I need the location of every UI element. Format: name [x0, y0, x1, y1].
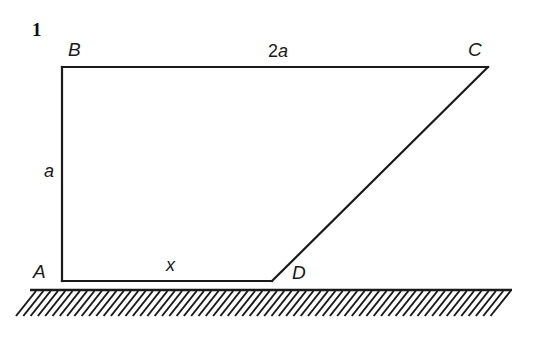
length-bc-number: 2 [268, 41, 278, 61]
geometry-figure: 1 B C A D a 2a x [0, 0, 535, 340]
length-ab-symbol: a [44, 161, 54, 181]
length-label-ad: x [166, 256, 175, 274]
length-label-ab: a [44, 162, 54, 180]
vertex-label-d: D [292, 263, 306, 282]
vertex-label-c: C [468, 40, 482, 59]
length-label-bc: 2a [268, 42, 288, 60]
vertex-label-b: B [68, 40, 81, 59]
edge-c-d [272, 67, 488, 281]
figure-number: 1 [32, 20, 42, 39]
hatch-line-group [16, 291, 511, 316]
quadrilateral-abcd [62, 67, 488, 281]
vertex-label-a: A [33, 262, 46, 281]
ground-hatching [16, 290, 512, 316]
length-ad-symbol: x [166, 255, 175, 275]
length-bc-symbol: a [278, 41, 288, 61]
